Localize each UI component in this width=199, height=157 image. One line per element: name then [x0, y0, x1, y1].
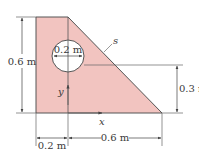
curve-label-leader	[104, 44, 112, 52]
right-height-label: 0.3 m	[179, 83, 199, 94]
curve-label: s	[113, 35, 118, 46]
bottom-left-label: 0.2 m	[38, 140, 67, 151]
bottom-right-label: 0.6 m	[101, 132, 130, 143]
y-axis-label: y	[57, 86, 64, 97]
hole-diameter-label: 0.2 m	[54, 44, 83, 55]
x-axis-label: x	[99, 116, 105, 127]
diagram-canvas: 0.2 m 0.6 m 0.3 m 0.2 m 0.6 m s y x	[0, 0, 199, 157]
left-height-label: 0.6 m	[8, 56, 37, 67]
